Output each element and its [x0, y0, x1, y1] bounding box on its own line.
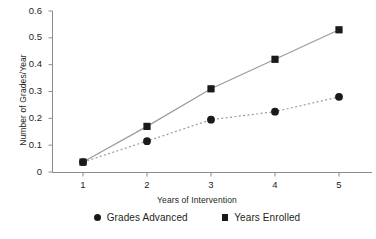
data-point-marker — [143, 123, 150, 130]
x-tick-label: 4 — [263, 179, 287, 190]
data-point-marker — [207, 116, 215, 124]
series-line — [83, 30, 339, 162]
data-point-marker — [207, 85, 214, 92]
series-lines — [83, 30, 339, 162]
y-tick-label: 0.4 — [6, 58, 42, 69]
y-axis-ticks — [49, 11, 53, 172]
x-tick-label: 3 — [199, 179, 223, 190]
series-markers — [79, 26, 343, 166]
y-tick-label: 0.2 — [6, 112, 42, 123]
data-point-marker — [335, 93, 343, 101]
legend-label: Years Enrolled — [234, 212, 300, 223]
chart-legend: Grades AdvancedYears Enrolled — [52, 212, 342, 223]
x-tick-label: 1 — [71, 179, 95, 190]
legend-square-icon — [222, 214, 229, 221]
x-axis-title: Years of Intervention — [52, 195, 342, 205]
y-tick-label: 0.1 — [6, 139, 42, 150]
legend-entry: Grades Advanced — [94, 212, 188, 223]
data-point-marker — [143, 137, 151, 145]
y-tick-label: 0 — [6, 166, 42, 177]
x-tick-label: 2 — [135, 179, 159, 190]
data-point-marker — [79, 158, 86, 165]
data-point-marker — [271, 108, 279, 116]
data-point-marker — [271, 56, 278, 63]
legend-label: Grades Advanced — [107, 212, 188, 223]
series-line — [83, 97, 339, 162]
x-tick-label: 5 — [327, 179, 351, 190]
y-tick-label: 0.3 — [6, 85, 42, 96]
x-axis-ticks — [83, 173, 339, 177]
y-tick-label: 0.5 — [6, 31, 42, 42]
data-point-marker — [335, 26, 342, 33]
legend-entry: Years Enrolled — [222, 212, 301, 223]
chart-container: Number of Grades/Year Years of Intervent… — [0, 0, 376, 239]
legend-circle-icon — [94, 214, 101, 221]
y-tick-label: 0.6 — [6, 5, 42, 16]
